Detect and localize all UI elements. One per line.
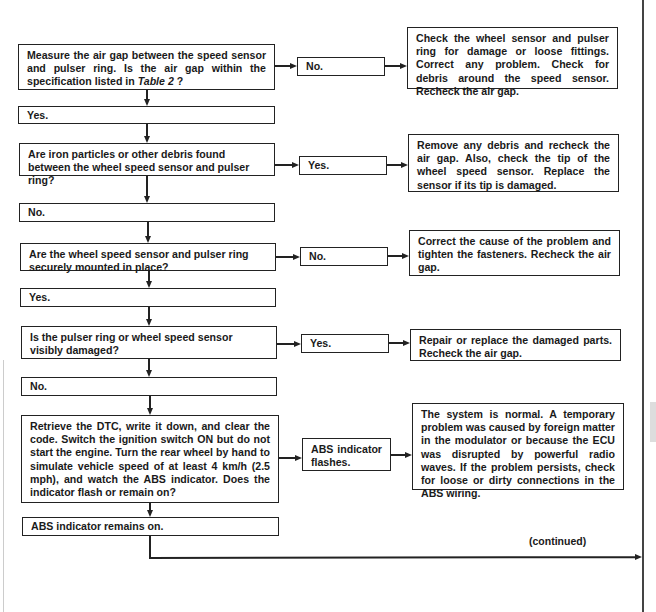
table-2-reference: Table 2 <box>138 75 174 87</box>
arrow-right-icon <box>295 455 302 461</box>
step1-yes-label: Yes. <box>27 109 48 121</box>
connector-continued-down <box>149 536 151 558</box>
connector-step3-action <box>388 255 403 257</box>
arrow-right-icon <box>293 254 300 260</box>
step1-action-text: Check the wheel sensor and pulser ring f… <box>416 32 609 97</box>
arrow-down-icon <box>144 136 150 143</box>
step3-question-text: Are the wheel speed sensor and pulser ri… <box>29 248 249 273</box>
connector-yes1-down <box>146 124 148 136</box>
arrow-down-icon <box>147 510 153 517</box>
step5-remains-on-label: ABS indicator remains on. <box>31 520 163 532</box>
arrow-right-icon <box>290 63 297 69</box>
connector-step5-action <box>391 454 406 456</box>
connector-no2-down <box>147 222 149 237</box>
arrow-right-icon <box>294 341 301 347</box>
step3-no-label: No. <box>309 250 326 262</box>
step5-question-text: Retrieve the DTC, write it down, and cle… <box>30 420 270 498</box>
step5-question-box: Retrieve the DTC, write it down, and cle… <box>21 415 279 503</box>
arrow-down-icon <box>146 370 152 377</box>
step2-action-text: Remove any debris and recheck the air ga… <box>417 139 610 191</box>
step5-action-text: The system is normal. A temporary proble… <box>421 408 615 499</box>
step4-question-box: Is the pulser ring or wheel speed sensor… <box>21 326 277 359</box>
step2-question-box: Are iron particles or other debris found… <box>19 143 275 176</box>
step4-yes-box: Yes. <box>301 334 389 353</box>
arrow-down-icon <box>147 408 153 415</box>
step4-action-text: Repair or replace the damaged parts. Rec… <box>419 334 612 359</box>
step3-yes-label: Yes. <box>29 291 50 303</box>
connector-step3-right <box>276 256 294 258</box>
arrow-right-icon <box>405 452 412 458</box>
step2-yes-label: Yes. <box>308 159 329 171</box>
step5-action-box: The system is normal. A temporary proble… <box>412 403 624 490</box>
step4-no-box: No. <box>21 377 277 396</box>
arrow-down-icon <box>146 281 152 288</box>
page-border-left <box>3 360 4 612</box>
step2-no-box: No. <box>19 203 275 222</box>
page-edge-tab <box>650 402 656 442</box>
step3-question-box: Are the wheel speed sensor and pulser ri… <box>20 243 276 271</box>
connector-continued-right <box>149 556 635 558</box>
step3-action-text: Correct the cause of the problem and tig… <box>418 235 611 273</box>
arrow-down-icon <box>144 99 150 106</box>
step4-no-label: No. <box>30 380 47 392</box>
step1-question-end: ? <box>174 75 183 87</box>
step2-yes-box: Yes. <box>299 156 387 175</box>
step2-no-label: No. <box>28 206 45 218</box>
step1-no-label: No. <box>306 60 323 72</box>
arrow-right-icon <box>401 162 408 168</box>
step5-flashes-box: ABS indicator flashes. <box>302 438 391 471</box>
step5-flashes-label: ABS indicator flashes. <box>311 443 382 468</box>
page-border-right <box>642 0 644 612</box>
step3-yes-box: Yes. <box>20 288 276 307</box>
step5-remains-on-box: ABS indicator remains on. <box>22 517 279 536</box>
step1-no-box: No. <box>297 57 385 76</box>
step1-question-box: Measure the air gap between the speed se… <box>18 44 275 90</box>
step3-action-box: Correct the cause of the problem and tig… <box>409 230 620 276</box>
connector-step4-right <box>277 343 295 345</box>
connector-step2-right <box>275 164 293 166</box>
arrow-down-icon <box>146 319 152 326</box>
connector-step4-action <box>389 342 404 344</box>
arrow-right-icon <box>403 340 410 346</box>
arrow-right-icon <box>292 162 299 168</box>
continued-label: (continued) <box>529 535 586 547</box>
connector-step5-right <box>279 457 296 459</box>
step4-yes-label: Yes. <box>310 337 331 349</box>
connector-step1-action <box>385 65 401 67</box>
arrow-right-icon <box>635 554 642 560</box>
step1-yes-box: Yes. <box>18 106 275 124</box>
step2-action-box: Remove any debris and recheck the air ga… <box>408 134 619 192</box>
step2-question-text: Are iron particles or other debris found… <box>28 148 249 186</box>
arrow-down-icon <box>144 196 150 203</box>
step4-action-box: Repair or replace the damaged parts. Rec… <box>410 329 621 361</box>
connector-step1-right <box>275 65 291 67</box>
arrow-down-icon <box>145 236 151 243</box>
arrow-right-icon <box>400 63 407 69</box>
step1-action-box: Check the wheel sensor and pulser ring f… <box>407 27 618 89</box>
connector-step2-down <box>146 176 148 197</box>
arrow-right-icon <box>402 253 409 259</box>
step4-question-text: Is the pulser ring or wheel speed sensor… <box>30 331 233 356</box>
step3-no-box: No. <box>300 247 388 266</box>
connector-step2-action <box>387 164 402 166</box>
